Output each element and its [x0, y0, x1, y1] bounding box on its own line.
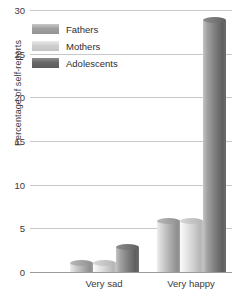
bar-mothers-very-sad	[93, 263, 116, 272]
legend-swatch-icon	[32, 24, 59, 34]
legend-swatch-icon	[32, 58, 59, 68]
y-tick-label: 0	[20, 267, 25, 278]
x-axis-line	[30, 272, 232, 273]
y-tick-label: 15	[14, 136, 25, 147]
x-category-label: Very sad	[86, 278, 123, 289]
bar-cap	[157, 218, 180, 224]
legend-item-fathers: Fathers	[32, 22, 118, 36]
bar-adolescents-very-sad	[116, 247, 139, 272]
y-tick-label: 20	[14, 92, 25, 103]
legend-label: Adolescents	[66, 58, 118, 69]
bar-fathers-very-happy	[157, 221, 180, 272]
bar-fathers-very-sad	[70, 263, 93, 272]
bar-cap	[203, 17, 226, 23]
x-category-label: Very happy	[167, 278, 215, 289]
y-tick-label: 5	[20, 223, 25, 234]
y-tick-label: 10	[14, 179, 25, 190]
bar-mothers-very-happy	[180, 221, 203, 272]
gridline: 10	[30, 185, 232, 186]
y-tick-label: 30	[14, 5, 25, 16]
y-tick-label: 25	[14, 48, 25, 59]
legend: FathersMothersAdolescents	[32, 22, 118, 73]
bar-cap	[93, 260, 116, 266]
legend-item-mothers: Mothers	[32, 39, 118, 53]
gridline: 30	[30, 10, 232, 11]
gridline: 15	[30, 141, 232, 142]
legend-swatch-icon	[32, 41, 59, 51]
bar-adolescents-very-happy	[203, 20, 226, 272]
bar-cap	[180, 218, 203, 224]
legend-label: Fathers	[66, 24, 98, 35]
legend-label: Mothers	[66, 41, 100, 52]
bar-chart: Percentage of self-reports 051015202530 …	[0, 0, 245, 304]
bar-cap	[70, 260, 93, 266]
legend-item-adolescents: Adolescents	[32, 56, 118, 70]
gridline: 20	[30, 97, 232, 98]
bar-cap	[116, 244, 139, 250]
